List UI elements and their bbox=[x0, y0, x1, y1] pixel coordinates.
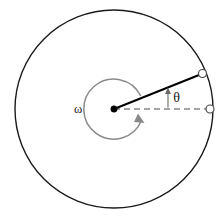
figure-canvas: ω θ bbox=[0, 0, 224, 219]
omega-label: ω bbox=[74, 102, 82, 116]
angular-velocity-arrowhead-icon bbox=[134, 114, 145, 124]
radius-line bbox=[114, 74, 202, 109]
theta-label: θ bbox=[173, 90, 180, 105]
rim-marker-rotated bbox=[199, 70, 207, 78]
center-point bbox=[111, 106, 117, 112]
rotating-disk-diagram: ω θ bbox=[0, 0, 224, 219]
rim-marker-reference bbox=[206, 105, 214, 113]
